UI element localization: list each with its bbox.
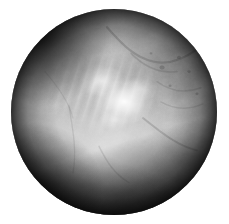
scope-aperture: [11, 9, 217, 215]
endoscopic-image-viewer: [0, 0, 229, 224]
corner-vignette: [11, 9, 217, 215]
